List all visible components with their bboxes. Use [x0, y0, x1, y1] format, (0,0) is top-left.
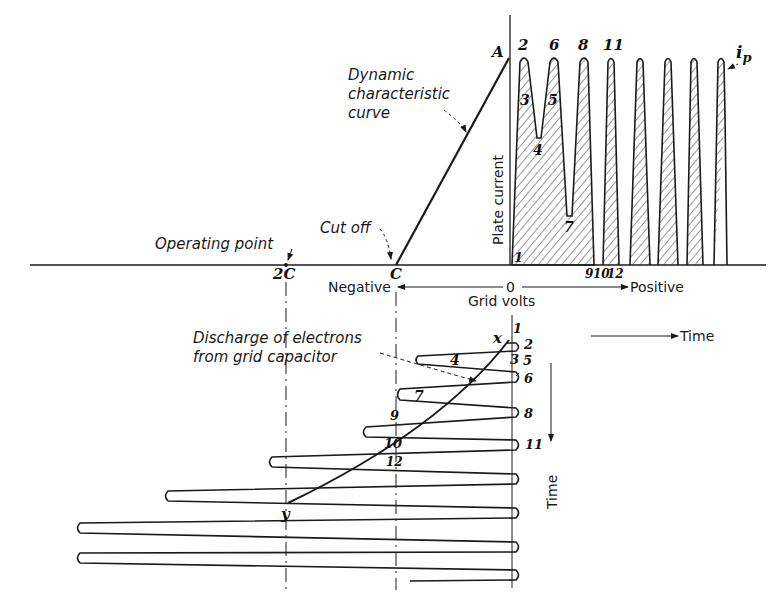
grid-label-8: 8: [524, 406, 533, 421]
grid-label-10: 10: [384, 436, 402, 451]
grid-volts-label: Grid volts: [468, 293, 535, 309]
plate-label-3: 3: [520, 92, 530, 108]
grid-label-6: 6: [524, 371, 533, 386]
grid-label-9: 9: [390, 408, 399, 423]
plate-current-label: Plate current: [490, 155, 506, 245]
ip-arrow: [728, 64, 738, 69]
plate-current-spike: [714, 59, 727, 266]
plate-label-1: 1: [514, 250, 523, 265]
operating-point-arrow: [288, 249, 292, 260]
operating-point-label: Operating point: [155, 235, 274, 253]
point-y-label: y: [280, 505, 291, 523]
grid-label-7: 7: [414, 388, 424, 404]
grid-leak-detector-diagram: Dynamic characteristic curve Cut off Ope…: [0, 0, 776, 608]
plate-current-spike: [630, 59, 650, 266]
plate-current-spike: [603, 59, 619, 266]
positive-label: Positive: [630, 279, 684, 295]
plate-current-waveform-main: [512, 58, 594, 265]
plate-current-spike: [658, 59, 678, 266]
grid-label-4: 4: [450, 352, 460, 368]
plate-label-5: 5: [548, 92, 558, 108]
dynamic-curve-arrow: [444, 110, 466, 132]
grid-voltage-waveform: [78, 343, 519, 581]
negative-label: Negative: [328, 279, 391, 295]
plate-label-4: 4: [533, 142, 543, 158]
plate-label-7: 7: [564, 219, 574, 235]
plate-current-spike: [687, 59, 703, 266]
grid-label-2: 2: [523, 337, 533, 352]
point-x-label: x: [492, 329, 503, 347]
cut-off-label: Cut off: [320, 219, 373, 237]
grid-label-11: 11: [525, 437, 543, 452]
point-a-label: A: [490, 43, 504, 61]
plate-label-12: 12: [607, 267, 624, 281]
dynamic-curve-label-line2: characteristic: [348, 85, 451, 103]
dynamic-curve-label-line1: Dynamic: [348, 66, 415, 84]
plate-label-11: 11: [603, 36, 624, 54]
time-vertical-label: Time: [544, 475, 560, 510]
ip-label: ip: [736, 42, 752, 65]
discharge-label-line2: from grid capacitor: [193, 348, 338, 366]
grid-label-5: 5: [523, 353, 532, 368]
grid-label-1: 1: [513, 321, 522, 336]
discharge-label-line1: Discharge of electrons: [193, 329, 362, 347]
point-2c-label: 2C: [272, 265, 295, 283]
grid-label-12: 12: [386, 455, 403, 469]
grid-label-3: 3: [510, 352, 519, 367]
cut-off-arrow: [380, 229, 391, 259]
point-c-label: C: [390, 265, 402, 283]
time-horizontal-label: Time: [679, 328, 714, 344]
dynamic-curve-label-line3: curve: [348, 104, 390, 122]
plate-label-8: 8: [578, 36, 589, 54]
plate-label-6: 6: [549, 36, 560, 54]
plate-label-2: 2: [517, 36, 528, 54]
